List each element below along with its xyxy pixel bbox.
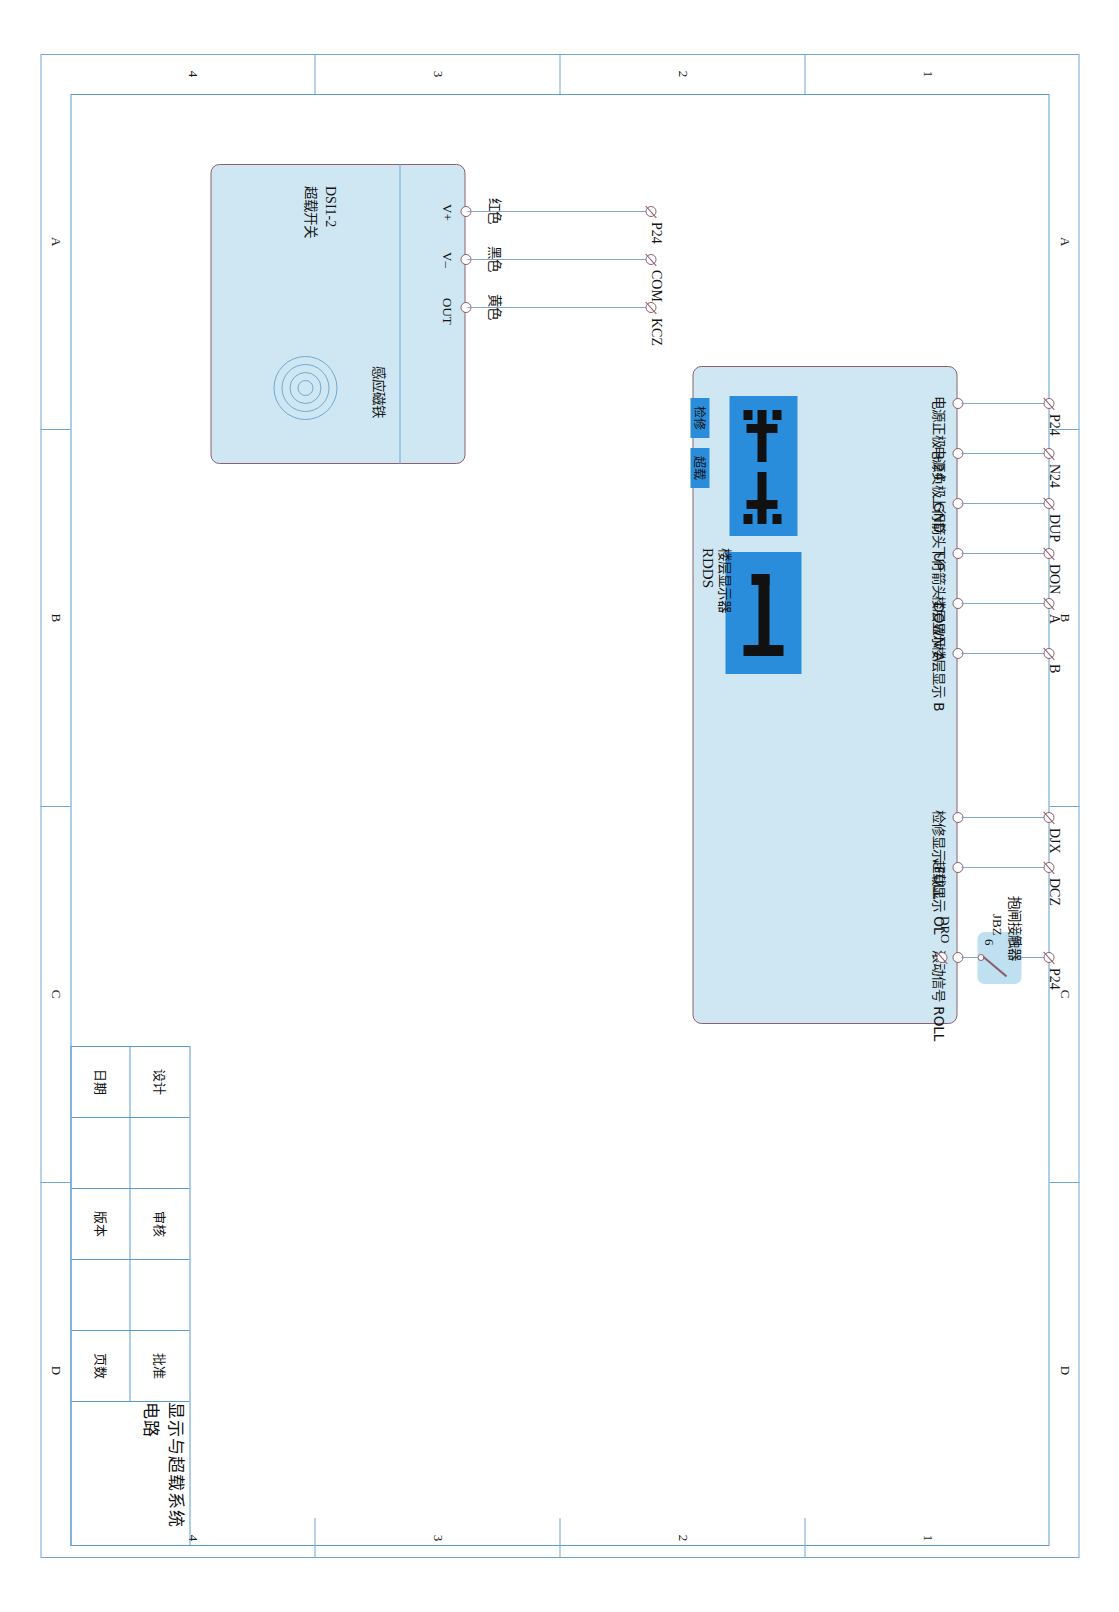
badge-inspection: 检修 (690, 398, 709, 438)
direction-arrow-tile (729, 396, 797, 536)
tb-value-date[interactable] (71, 1118, 130, 1188)
signal-terminal-n24 (1043, 448, 1054, 459)
signal-terminal-p24-switch (645, 206, 656, 217)
lead-wire (467, 211, 651, 212)
zone-label-d-top: D (1049, 1183, 1079, 1558)
zone-label-a-top: A (1049, 54, 1079, 430)
zone-label-4-left: 4 (70, 54, 314, 94)
badge-overload: 超载 (690, 448, 709, 488)
zone-label-3-left: 3 (314, 54, 559, 94)
lead-wire (961, 867, 1049, 868)
contactor-pin-label-6: 6 (980, 939, 995, 946)
lead-wire (961, 653, 1049, 654)
lead-wire (961, 403, 1049, 404)
zone-label-2-left: 2 (559, 54, 804, 94)
signal-label: DCZ (1045, 878, 1061, 906)
signal-label: DON (1045, 564, 1061, 594)
overload-switch-model: DSI1-2 (321, 186, 337, 227)
title-block-values-2 (71, 1260, 189, 1331)
tb-value-version[interactable] (71, 1260, 130, 1330)
signal-terminal-kcz (645, 302, 656, 313)
floor-digit-tile (725, 552, 801, 674)
title-block-title-col: 显示与超载系统电路 (71, 1402, 189, 1545)
tb-label-approve: 批准 (130, 1331, 190, 1401)
overload-switch-divider (399, 164, 400, 464)
tb-value-design[interactable] (130, 1118, 190, 1188)
zone-strip-top: A B C D (1049, 54, 1079, 1558)
title-block-labels-2: 审核 版本 (71, 1189, 189, 1260)
zone-label-c-bottom: C (40, 807, 70, 1183)
tb-label-review: 审核 (130, 1189, 190, 1259)
lead-wire (961, 553, 1049, 554)
pin-label: OUT (438, 298, 453, 325)
node-terminal-dro (936, 952, 947, 963)
tb-label-date: 日期 (71, 1047, 130, 1117)
lead-wire (961, 503, 1049, 504)
lead-wire (467, 307, 651, 308)
signal-label: COM (647, 270, 663, 302)
signal-label: A (1045, 614, 1061, 624)
signal-terminal-com (645, 254, 656, 265)
signal-label: N24 (1045, 464, 1061, 488)
zone-column-left: 1 2 3 4 (70, 54, 1049, 94)
signal-terminal-a (1043, 598, 1054, 609)
terminal-description: 滚动信号 ROLL (929, 950, 945, 1041)
signal-terminal-dcz (1043, 862, 1054, 873)
node-label-dro: DRO (936, 916, 951, 943)
signal-label: KCZ (647, 318, 663, 346)
zone-strip-bottom: A B C D (40, 54, 70, 1558)
signal-terminal-djx (1043, 812, 1054, 823)
signal-terminal-don (1043, 548, 1054, 559)
zone-label-1-left: 1 (804, 54, 1049, 94)
lead-wire (961, 817, 1049, 818)
drawing-title: 显示与超载系统电路 (139, 1402, 189, 1545)
overload-switch-name: 超载开关 (301, 186, 317, 238)
magnet-label: 感应磁铁 (369, 366, 385, 418)
signal-label: P24 (1045, 414, 1061, 436)
zone-label-3-right: 3 (314, 1518, 559, 1558)
signal-terminal-p24 (1043, 398, 1054, 409)
zone-label-2-right: 2 (559, 1518, 804, 1558)
signal-label: P24 (1045, 968, 1061, 990)
lead-wire (961, 453, 1049, 454)
contactor-name: 抱闸接触器 (1005, 896, 1021, 961)
zone-label-d-bottom: D (40, 1183, 70, 1558)
signal-label: DUP (1045, 514, 1061, 542)
title-block-labels-3: 批准 页数 (71, 1331, 189, 1402)
overload-switch-panel (210, 164, 465, 464)
tb-value-review[interactable] (130, 1260, 190, 1330)
title-block-values-1 (71, 1118, 189, 1189)
drawing-sheet: A B C D A B C D 1 2 3 4 1 2 3 4 (22, 36, 1097, 1576)
signal-terminal-dup (1043, 498, 1054, 509)
zone-label-1-right: 1 (804, 1518, 1049, 1558)
signal-terminal-roll-p24 (1043, 952, 1054, 963)
tb-label-design: 设计 (130, 1047, 190, 1117)
rdds-unit-subtitle: 楼层显示器 (715, 548, 731, 613)
magnet-ring (297, 380, 313, 396)
pin-label: V– (438, 252, 453, 268)
zone-label-a-bottom: A (40, 54, 70, 430)
tb-label-pages: 页数 (71, 1331, 130, 1401)
signal-terminal-b (1043, 648, 1054, 659)
tb-label-version: 版本 (71, 1189, 130, 1259)
zone-label-b-bottom: B (40, 430, 70, 806)
pin-label: V+ (438, 204, 453, 221)
signal-label: B (1045, 664, 1061, 673)
lead-wire (467, 259, 651, 260)
terminal-description: 楼层显示 B (929, 646, 945, 712)
signal-label: DJX (1045, 828, 1061, 854)
rdds-unit-name: RDDS (698, 548, 715, 588)
title-block-labels-1: 设计 日期 (71, 1047, 189, 1118)
signal-label: P24 (647, 222, 663, 244)
contactor-code: JBZ (988, 914, 1003, 936)
title-block: 设计 日期 审核 版本 批准 页数 显示与超载系统电路 (70, 1046, 190, 1546)
lead-wire (961, 603, 1049, 604)
zone-column-right: 1 2 3 4 (70, 1518, 1049, 1558)
